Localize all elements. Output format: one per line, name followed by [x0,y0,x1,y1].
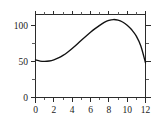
x-tick-label-4: 4 [70,105,75,115]
y-axis-major-ticks [31,25,36,97]
x-tick-label-0: 0 [33,105,38,115]
x-tick-label-6: 6 [88,105,93,115]
x-axis-tick-labels: 0 2 4 6 8 10 12 [33,105,150,115]
x-tick-label-12: 12 [141,105,151,115]
data-series-curve [36,20,146,63]
x-axis-major-ticks [36,98,146,103]
y-tick-label-0: 0 [23,93,28,103]
y-tick-label-50: 50 [19,57,29,67]
x-tick-label-10: 10 [122,105,132,115]
x-tick-label-2: 2 [51,105,56,115]
x-tick-label-8: 8 [106,105,111,115]
right-axis-ticks [146,25,151,97]
y-axis-tick-labels: 0 50 100 [14,21,29,103]
y-tick-label-100: 100 [14,21,29,31]
line-chart: 0 50 100 0 2 4 6 8 10 12 [0,0,157,123]
top-axis-ticks [36,11,146,15]
